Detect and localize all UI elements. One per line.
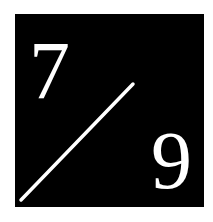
denominator-digit: 9 [151, 120, 192, 202]
logo-square: 7 9 [15, 14, 204, 207]
